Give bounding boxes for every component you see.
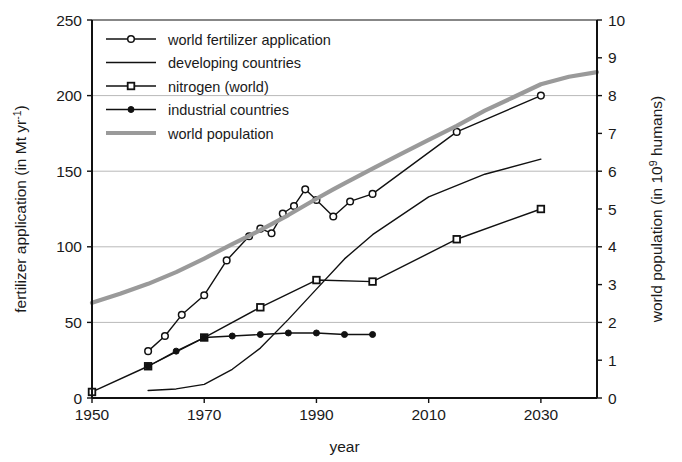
y-axis-title: fertilizer application (in Mt yr-1)	[11, 105, 29, 312]
data-point-3	[229, 333, 235, 339]
data-point-7	[268, 230, 275, 237]
legend-item-3: industrial countries	[106, 102, 289, 118]
tick-label-left-200: 200	[56, 87, 82, 104]
tick-label-right-4: 4	[608, 238, 617, 255]
data-point-6	[313, 330, 319, 336]
legend-item-1: developing countries	[106, 55, 301, 71]
data-point-10	[302, 186, 309, 193]
tick-label-right-6: 6	[608, 163, 617, 180]
tick-label-right-7: 7	[608, 125, 617, 142]
data-point-4	[257, 331, 263, 337]
tick-label-left-100: 100	[56, 238, 82, 255]
data-point-15	[453, 129, 460, 136]
legend-item-4: world population	[106, 126, 274, 142]
y2-axis-title: world population (in 109 humans)	[647, 96, 665, 323]
chart-figure: 0501001502002500123456789101950197019902…	[0, 0, 682, 462]
axis-titles: fertilizer application (in Mt yr-1)world…	[11, 96, 665, 455]
tick-label-right-3: 3	[608, 276, 617, 293]
tick-label-right-8: 8	[608, 87, 617, 104]
data-point-14	[369, 191, 376, 198]
tick-label-left-0: 0	[73, 390, 82, 407]
legend-label: developing countries	[168, 55, 301, 71]
data-point-1	[162, 333, 169, 340]
series-developing-countries	[148, 159, 541, 390]
axis-ticks	[87, 20, 602, 403]
data-point-2	[201, 335, 207, 341]
data-point-4	[223, 257, 230, 264]
tick-label-x-1970: 1970	[187, 406, 222, 423]
data-point-2	[178, 312, 185, 319]
data-point-7	[342, 331, 348, 337]
tick-label-x-2010: 2010	[411, 406, 446, 423]
legend-item-0: world fertilizer application	[106, 32, 331, 48]
tick-label-x-2030: 2030	[524, 406, 559, 423]
chart-canvas: 0501001502002500123456789101950197019902…	[0, 0, 682, 462]
tick-label-x-1990: 1990	[299, 406, 334, 423]
data-point-6	[453, 236, 460, 243]
data-point-8	[370, 331, 376, 337]
tick-label-right-5: 5	[608, 201, 617, 218]
axis-frame	[92, 20, 597, 398]
data-point-1	[173, 348, 179, 354]
tick-label-right-9: 9	[608, 49, 617, 66]
legend-label: nitrogen (world)	[168, 79, 269, 95]
legend-label: industrial countries	[168, 102, 289, 118]
tick-label-left-50: 50	[65, 314, 83, 331]
tick-label-left-250: 250	[56, 12, 82, 29]
data-point-5	[369, 278, 376, 285]
data-point-swatch	[128, 107, 134, 113]
data-point-swatch	[128, 83, 135, 90]
data-point-4	[313, 277, 320, 284]
series-line	[148, 159, 541, 390]
data-point-0	[145, 348, 152, 355]
data-point-13	[347, 198, 354, 205]
series-industrial-countries	[145, 330, 375, 369]
tick-label-right-1: 1	[608, 352, 617, 369]
plot-series	[89, 72, 597, 395]
tick-label-left-150: 150	[56, 163, 82, 180]
data-point-swatch	[128, 36, 135, 43]
data-point-3	[201, 292, 208, 299]
series-line	[92, 209, 541, 392]
legend-item-2: nitrogen (world)	[106, 79, 269, 95]
x-axis-title: year	[329, 438, 359, 455]
legend-label: world fertilizer application	[167, 32, 331, 48]
tick-label-x-1950: 1950	[75, 406, 110, 423]
data-point-3	[257, 304, 264, 311]
series-nitrogen-world-	[89, 206, 544, 396]
tick-label-right-0: 0	[608, 390, 617, 407]
tick-label-right-10: 10	[608, 12, 626, 29]
tick-label-right-2: 2	[608, 314, 617, 331]
data-point-12	[330, 213, 337, 220]
data-point-5	[285, 330, 291, 336]
data-point-16	[538, 92, 545, 99]
legend: world fertilizer applicationdeveloping c…	[106, 32, 331, 142]
legend-label: world population	[167, 126, 274, 142]
axis-tick-labels: 0501001502002500123456789101950197019902…	[56, 12, 625, 424]
data-point-7	[538, 206, 545, 213]
data-point-0	[145, 363, 151, 369]
